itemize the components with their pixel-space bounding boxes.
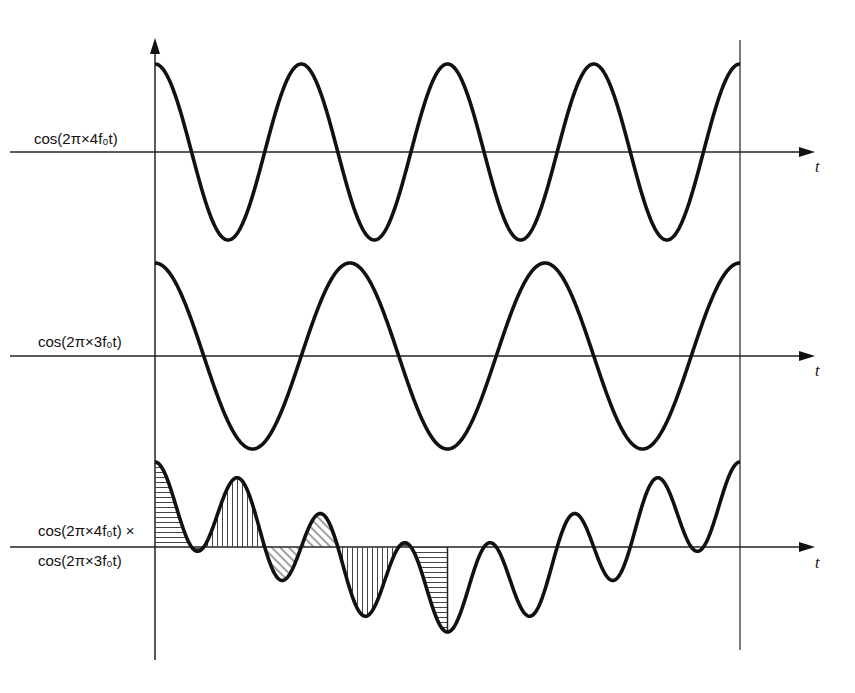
product-label-line2: cos(2π×3f₀t) bbox=[38, 552, 122, 569]
t-axis-label-2: t bbox=[815, 362, 819, 380]
t-axis-label-3: t bbox=[815, 554, 819, 572]
product-label-line1: cos(2π×4f₀t) × bbox=[38, 522, 135, 539]
arrow-up-icon bbox=[150, 38, 160, 54]
t-axis-label-1: t bbox=[815, 158, 819, 176]
cos4-label: cos(2π×4f₀t) bbox=[34, 130, 118, 147]
arrow-right-icon bbox=[799, 542, 815, 552]
cos3-label: cos(2π×3f₀t) bbox=[38, 333, 122, 350]
vertical-axis bbox=[150, 38, 160, 660]
arrow-right-icon bbox=[799, 147, 815, 157]
arrow-right-icon bbox=[799, 351, 815, 361]
product-of-cosines-diagram bbox=[0, 0, 855, 693]
